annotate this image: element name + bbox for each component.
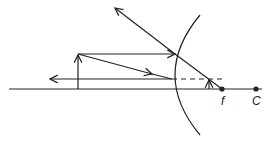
virtual-extension-1	[175, 54, 222, 89]
center-of-curvature-label: C	[252, 95, 261, 107]
diagram-svg	[0, 0, 270, 143]
focal-point-dot	[219, 86, 224, 91]
ray-diagram: f C	[0, 0, 270, 143]
reflected-ray-1	[115, 8, 175, 54]
center-of-curvature-dot	[253, 86, 258, 91]
convex-mirror	[175, 15, 200, 135]
incident-ray-2	[78, 54, 152, 74]
focal-point-label: f	[221, 95, 224, 107]
incident-ray-2-cont	[150, 74, 172, 80]
